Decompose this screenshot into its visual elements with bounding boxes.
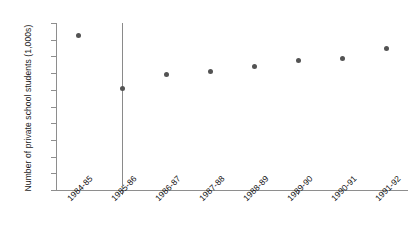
x-axis-tick-label: 1991-92 [373,173,403,203]
x-axis-tick-label: 1985-86 [109,173,139,203]
y-axis-tick: 200 [0,23,56,24]
y-axis-tick: 40 [0,157,56,158]
data-point [340,56,345,61]
y-axis-tick: 140 [0,73,56,74]
y-axis-tick: 120 [0,90,56,91]
y-axis-tick: 60 [0,140,56,141]
data-point [208,69,213,74]
y-axis-tick: 0 [0,190,56,191]
data-point [164,72,169,77]
x-axis-tick-label: 1989-90 [285,173,315,203]
data-point [76,33,81,38]
x-axis-tick-label: 1990-91 [329,173,359,203]
data-point [252,64,257,69]
error-bar [122,23,123,190]
y-axis-tick: 20 [0,173,56,174]
y-axis-tick: 180 [0,40,56,41]
y-axis-tick: 160 [0,56,56,57]
y-axis-line [56,23,57,191]
x-axis-tick-label: 1988-89 [241,173,271,203]
chart-figure: Number of private school students (1,000… [0,0,419,238]
x-axis-tick-label: 1984-85 [65,173,95,203]
x-axis-line [56,190,408,191]
data-point [296,58,301,63]
data-point [384,46,389,51]
y-axis-tick: 80 [0,123,56,124]
x-axis-tick-label: 1986-87 [153,173,183,203]
data-point [120,86,125,91]
y-axis-title: Number of private school students (1,000… [23,8,33,208]
x-axis-tick-label: 1987-88 [197,173,227,203]
y-axis-tick: 100 [0,107,56,108]
